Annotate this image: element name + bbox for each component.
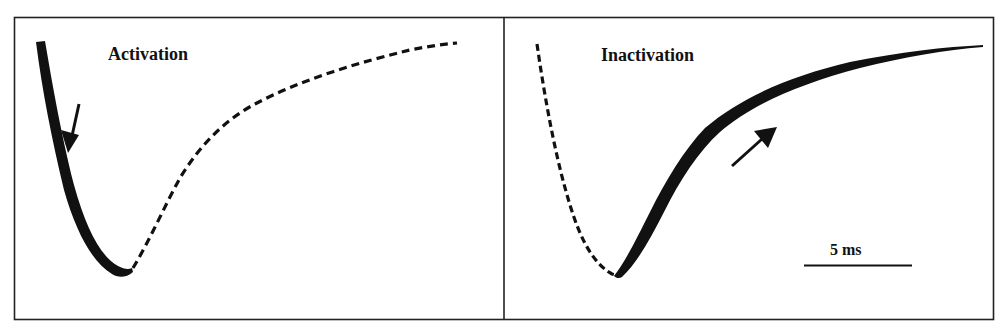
panel-label-inactivation: Inactivation [601, 45, 694, 65]
panel-label-activation: Activation [108, 44, 188, 64]
scale-bar: 5 ms [804, 241, 912, 266]
panel-inactivation: Inactivation 5 ms [537, 44, 983, 278]
scale-bar-label: 5 ms [830, 241, 862, 258]
inactivation-band [614, 45, 983, 278]
arrow-up-right-icon [732, 127, 777, 166]
figure-canvas: Activation Inactivation 5 ms [0, 0, 1006, 333]
inactivation-dashed-curve [537, 44, 616, 275]
activation-dashed-curve [133, 43, 457, 268]
panel-activation: Activation [36, 41, 457, 277]
activation-band [36, 41, 133, 277]
